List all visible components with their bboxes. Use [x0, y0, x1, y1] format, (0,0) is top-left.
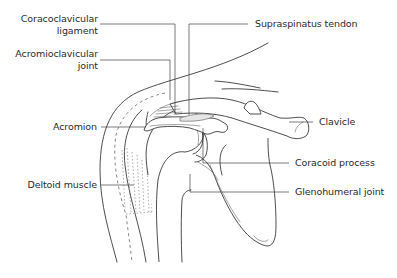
label-acromioclavicular-joint: Acromioclavicular joint	[4, 48, 98, 72]
label-line: joint	[4, 60, 98, 72]
leader-acromioclavicular	[100, 60, 170, 100]
humerus	[146, 109, 204, 262]
label-line: Acromioclavicular	[4, 48, 98, 60]
label-coracoclavicular-ligament: Coracoclavicular ligament	[14, 13, 98, 37]
scapula	[195, 125, 276, 246]
label-coracoid-process: Coracoid process	[295, 157, 375, 169]
label-acromion: Acromion	[30, 121, 97, 133]
anatomy-illustration	[0, 0, 397, 278]
label-supraspinatus-tendon: Supraspinatus tendon	[255, 18, 357, 30]
label-glenohumeral-joint: Glenohumeral joint	[295, 186, 384, 198]
label-clavicle: Clavicle	[319, 116, 355, 128]
leader-coracoclavicular	[100, 24, 175, 115]
label-line: Coracoclavicular	[14, 13, 98, 25]
label-deltoid-muscle: Deltoid muscle	[10, 179, 97, 191]
shoulder-anatomy-diagram: Coracoclavicular ligament Acromioclavicu…	[0, 0, 397, 278]
label-line: ligament	[14, 25, 98, 37]
